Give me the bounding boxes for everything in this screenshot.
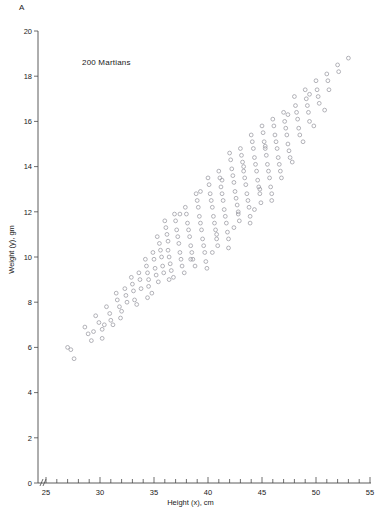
data-point xyxy=(305,104,309,108)
data-point xyxy=(232,181,236,185)
data-point xyxy=(129,275,133,279)
data-point xyxy=(227,237,231,241)
data-point xyxy=(199,190,203,194)
data-point xyxy=(209,199,213,203)
data-point xyxy=(155,235,159,239)
x-tick-label: 50 xyxy=(312,488,320,497)
data-point xyxy=(202,244,206,248)
data-point xyxy=(114,291,118,295)
data-points-group xyxy=(66,56,351,360)
x-tick-label: 45 xyxy=(258,488,266,497)
data-point xyxy=(200,228,204,232)
data-point xyxy=(196,205,200,209)
data-point xyxy=(272,124,276,128)
data-point xyxy=(131,282,135,286)
data-point xyxy=(277,162,281,166)
data-point xyxy=(267,169,271,173)
data-point xyxy=(210,205,214,209)
data-point xyxy=(185,212,189,216)
data-point xyxy=(256,178,260,182)
data-point xyxy=(293,95,297,99)
y-tick-label: 18 xyxy=(24,72,32,81)
panel-label: A xyxy=(19,3,24,13)
data-point xyxy=(304,97,308,101)
data-point xyxy=(69,348,73,352)
data-point xyxy=(177,242,181,246)
data-point xyxy=(111,323,115,327)
data-point xyxy=(83,325,87,329)
data-point xyxy=(221,199,225,203)
data-point xyxy=(246,199,250,203)
axis-group: 0246810121416182025303540455055 xyxy=(24,27,375,497)
data-point xyxy=(166,239,170,243)
data-point xyxy=(253,208,257,212)
data-point xyxy=(194,192,198,196)
y-tick-label: 14 xyxy=(24,162,32,171)
data-point xyxy=(146,296,150,300)
x-tick-label: 35 xyxy=(150,488,158,497)
data-point xyxy=(100,327,104,331)
data-point xyxy=(264,153,268,157)
data-point xyxy=(249,133,253,137)
data-point xyxy=(215,237,219,241)
data-point xyxy=(143,257,147,261)
data-point xyxy=(189,244,193,248)
y-tick-label: 8 xyxy=(28,298,32,307)
data-point xyxy=(266,162,270,166)
data-point xyxy=(119,316,123,320)
data-point xyxy=(295,110,299,114)
data-point xyxy=(260,124,264,128)
data-point xyxy=(285,133,289,137)
data-point xyxy=(203,251,207,255)
data-point xyxy=(193,264,197,268)
data-point xyxy=(133,298,137,302)
data-point xyxy=(187,228,191,232)
data-point xyxy=(179,257,183,261)
data-point xyxy=(247,205,251,209)
data-point xyxy=(72,357,76,361)
data-point xyxy=(173,212,177,216)
data-point xyxy=(259,201,263,205)
data-point xyxy=(190,251,194,255)
data-point xyxy=(275,147,279,151)
data-point xyxy=(207,183,211,187)
data-point xyxy=(308,120,312,124)
data-point xyxy=(89,339,93,343)
data-point xyxy=(205,266,209,270)
data-point xyxy=(273,133,277,137)
data-point xyxy=(280,176,284,180)
data-point xyxy=(158,242,162,246)
x-tick-label: 30 xyxy=(96,488,104,497)
data-point xyxy=(226,230,230,234)
data-point xyxy=(139,287,143,291)
y-tick-label: 0 xyxy=(28,479,32,488)
data-point xyxy=(251,147,255,151)
data-point xyxy=(243,176,247,180)
data-point xyxy=(218,176,222,180)
data-point xyxy=(123,287,127,291)
data-point xyxy=(262,140,266,144)
data-point xyxy=(183,205,187,209)
data-point xyxy=(167,255,171,259)
data-point xyxy=(271,117,275,121)
data-point xyxy=(188,235,192,239)
data-point xyxy=(254,162,258,166)
data-point xyxy=(204,260,208,264)
plot-canvas: 0246810121416182025303540455055 xyxy=(0,0,381,517)
data-point xyxy=(197,214,201,218)
data-point xyxy=(137,271,141,275)
data-point xyxy=(161,264,165,268)
data-point xyxy=(231,174,235,178)
data-point xyxy=(206,176,210,180)
data-point xyxy=(156,280,160,284)
data-point xyxy=(214,228,218,232)
data-point xyxy=(125,300,129,304)
x-tick-label: 25 xyxy=(42,488,50,497)
data-point xyxy=(147,284,151,288)
data-point xyxy=(115,298,119,302)
data-point xyxy=(301,140,305,144)
x-axis-label: Height (x), cm xyxy=(0,498,381,507)
data-point xyxy=(336,63,340,67)
data-point xyxy=(237,219,241,223)
data-point xyxy=(325,72,329,76)
